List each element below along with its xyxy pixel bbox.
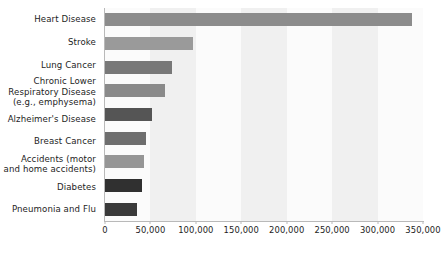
x-tick-label: 300,000: [360, 224, 395, 236]
y-axis-line: [104, 8, 105, 221]
bar[interactable]: [105, 37, 193, 50]
x-tick-label: 350,000: [405, 224, 440, 236]
category-label-line: Pneumonia and Flu: [12, 204, 96, 214]
category-label-line: and home accidents): [4, 164, 96, 174]
category-label-line: Chronic Lower: [34, 76, 96, 86]
bar[interactable]: [105, 84, 165, 97]
category-label-line: Lung Cancer: [41, 60, 96, 70]
bar-chart: Heart DiseaseStrokeLung CancerChronic Lo…: [0, 0, 446, 254]
category-axis: Heart DiseaseStrokeLung CancerChronic Lo…: [0, 8, 100, 221]
bar-row: [105, 8, 423, 32]
bar[interactable]: [105, 179, 142, 192]
x-tick-label: 0: [102, 224, 107, 236]
bars-layer: [105, 8, 423, 221]
category-label-line: Heart Disease: [34, 14, 96, 24]
x-tick-label: 200,000: [269, 224, 304, 236]
plot-area: [105, 8, 423, 221]
bar-row: [105, 150, 423, 174]
bar[interactable]: [105, 13, 412, 26]
x-tick-label: 150,000: [224, 224, 259, 236]
bar[interactable]: [105, 132, 146, 145]
category-label: Heart Disease: [0, 8, 100, 31]
bar[interactable]: [105, 155, 144, 168]
bar-row: [105, 197, 423, 221]
x-tick-label: 50,000: [135, 224, 165, 236]
category-label: Alzheimer's Disease: [0, 107, 100, 130]
category-label-line: Diabetes: [57, 182, 96, 192]
bar-row: [105, 79, 423, 103]
category-label-line: (e.g., emphysema): [13, 97, 96, 107]
category-label: Diabetes: [0, 176, 100, 199]
category-label: Accidents (motorand home accidents): [0, 153, 100, 176]
category-label-line: Stroke: [68, 37, 96, 47]
x-tick-label: 250,000: [314, 224, 349, 236]
category-label-line: Accidents (motor: [21, 154, 96, 164]
category-label: Breast Cancer: [0, 130, 100, 153]
x-axis-ticks: 050,000100,000150,000200,000250,000300,0…: [105, 224, 423, 240]
category-label-line: Respiratory Disease: [8, 87, 96, 97]
bar[interactable]: [105, 108, 152, 121]
bar-row: [105, 32, 423, 56]
category-label: Lung Cancer: [0, 53, 100, 76]
category-label: Pneumonia and Flu: [0, 198, 100, 221]
x-axis-line: [104, 221, 424, 222]
category-label-line: Breast Cancer: [34, 136, 96, 146]
bar-row: [105, 55, 423, 79]
bar-row: [105, 174, 423, 198]
x-tick-label: 100,000: [178, 224, 213, 236]
category-label: Stroke: [0, 31, 100, 54]
bar-row: [105, 126, 423, 150]
category-label-line: Alzheimer's Disease: [8, 114, 96, 124]
bar[interactable]: [105, 203, 137, 216]
bar-row: [105, 103, 423, 127]
bar[interactable]: [105, 61, 172, 74]
category-label: Chronic LowerRespiratory Disease(e.g., e…: [0, 76, 100, 107]
